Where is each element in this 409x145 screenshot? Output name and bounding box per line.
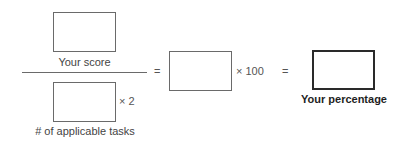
percentage-result-box[interactable] xyxy=(312,50,375,90)
score-label: Your score xyxy=(53,56,116,68)
equals-sign-1: = xyxy=(154,65,160,77)
times-two-multiplier: × 2 xyxy=(119,95,135,107)
times-hundred-multiplier: × 100 xyxy=(236,65,264,77)
applicable-tasks-input-box[interactable] xyxy=(53,82,116,122)
score-input-box[interactable] xyxy=(53,12,116,52)
ratio-input-box[interactable] xyxy=(169,51,232,91)
equals-sign-2: = xyxy=(282,65,288,77)
percentage-label: Your percentage xyxy=(296,93,392,105)
applicable-tasks-label: # of applicable tasks xyxy=(26,125,144,137)
fraction-divider-line xyxy=(22,72,147,73)
